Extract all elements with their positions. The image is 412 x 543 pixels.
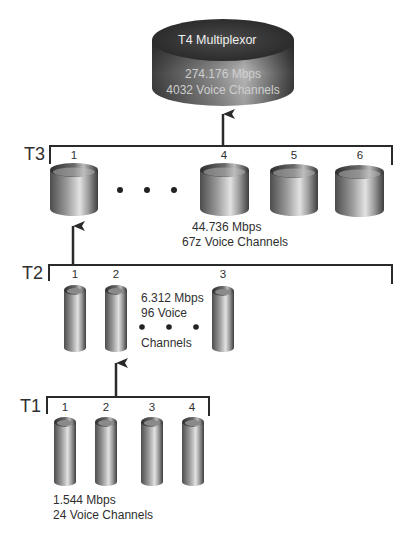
t2-unit-1-number: 1: [65, 268, 85, 280]
t1-tube-4-icon: [182, 417, 204, 486]
t1-unit-4-number: 4: [182, 401, 202, 413]
t1-unit-1-number: 1: [55, 401, 75, 413]
t1-tube-1-icon: [54, 417, 76, 486]
t3-unit-4-number: 4: [214, 149, 234, 161]
t3-cylinder-1-icon: [50, 163, 98, 216]
t1-unit-3-number: 3: [142, 401, 162, 413]
t2-unit-2-number: 2: [106, 268, 126, 280]
t4-title: T4 Multiplexor: [178, 33, 257, 47]
t1-rate: 1.544 Mbps: [53, 493, 153, 508]
t3-rate: 44.736 Mbps: [190, 220, 288, 235]
t3-unit-1-number: 1: [64, 149, 84, 161]
t3-info: 44.736 Mbps 67z Voice Channels: [190, 220, 288, 250]
t2-channels-line1: 96 Voice: [141, 306, 187, 321]
t4-channels: 4032 Voice Channels: [153, 82, 293, 98]
t3-tier-label: T3: [24, 144, 45, 165]
t2-unit-3-number: 3: [213, 268, 233, 280]
t3-cylinder-5-icon: [270, 164, 318, 216]
t2-tube-1-icon: [64, 285, 86, 352]
t3-cylinder-6-icon: [335, 165, 384, 217]
t1-channels: 24 Voice Channels: [53, 508, 153, 523]
t2-ellipsis-dots-icon: [139, 324, 199, 330]
t4-rate: 274.176 Mbps: [153, 66, 293, 82]
t2-tube-3-icon: [212, 286, 234, 352]
t2-channels-line2: Channels: [141, 336, 192, 351]
t1-tier-label: T1: [20, 396, 41, 417]
t2-tube-2-icon: [105, 285, 127, 352]
t3-unit-5-number: 5: [284, 149, 304, 161]
t2-rate: 6.312 Mbps: [141, 291, 204, 306]
t2-tier-label: T2: [22, 263, 43, 284]
t1-unit-2-number: 2: [96, 401, 116, 413]
t1-tube-3-icon: [141, 417, 163, 486]
t3-ellipsis-dots-icon: [117, 187, 177, 193]
t1-tube-2-icon: [95, 417, 117, 486]
t3-cylinder-4-icon: [200, 163, 249, 216]
t3-channels: 67z Voice Channels: [182, 235, 288, 250]
t4-info: 274.176 Mbps 4032 Voice Channels: [153, 66, 293, 98]
t3-unit-6-number: 6: [350, 149, 370, 161]
t1-info: 1.544 Mbps 24 Voice Channels: [53, 493, 153, 523]
